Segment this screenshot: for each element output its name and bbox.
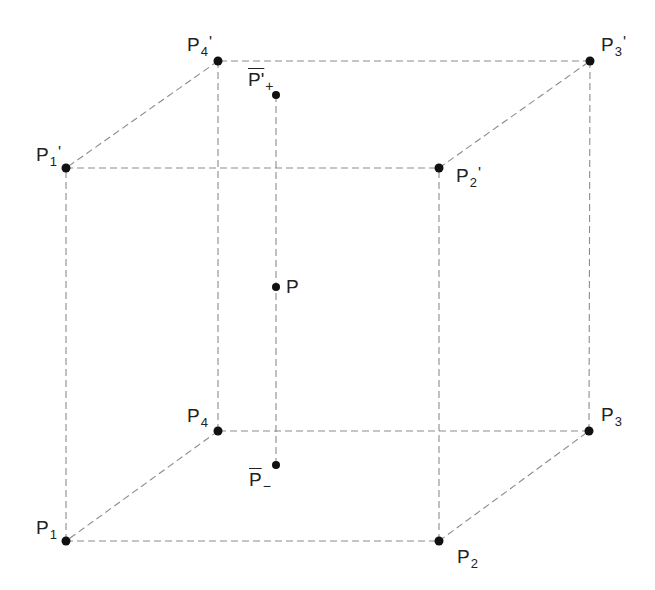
label-p-plus-sub: + <box>265 78 273 94</box>
label-p1: P1 <box>36 518 57 537</box>
label-p3: P3 <box>601 405 622 424</box>
label-p2-prime: P2' <box>456 166 481 185</box>
label-p2-base: P <box>457 546 470 567</box>
vertex-p2-prime <box>435 164 444 173</box>
label-p4-prime: P4' <box>187 35 212 54</box>
label-p1-sub: 1 <box>50 527 57 542</box>
vertex-p3-prime <box>586 57 595 66</box>
label-p2-prime-mark: ' <box>478 165 481 182</box>
label-p: P <box>286 277 299 296</box>
vertex-p1 <box>62 537 71 546</box>
label-p2-prime-base: P <box>456 165 469 186</box>
label-p1-prime-mark: ' <box>58 144 61 161</box>
label-p3-prime-sub: 3 <box>615 44 622 59</box>
label-p3-prime: P3' <box>601 35 626 54</box>
vertex-p2 <box>435 537 444 546</box>
label-p1-base: P <box>36 517 49 538</box>
vertex-p1-prime <box>62 164 71 173</box>
label-p4-sub: 4 <box>201 415 208 430</box>
label-p4-prime-sub: 4 <box>201 44 208 59</box>
label-p-minus-sub: − <box>263 478 271 494</box>
label-p-plus: P'+ <box>248 70 274 89</box>
label-p2: P2 <box>457 547 478 566</box>
label-p3-sub: 3 <box>615 414 622 429</box>
diagram-canvas <box>0 0 655 590</box>
edge-p4-p1 <box>66 431 218 541</box>
edge-p2p-p3p <box>439 61 590 168</box>
label-p3-base: P <box>601 404 614 425</box>
vertex-p-minus <box>272 461 280 469</box>
label-p3-prime-base: P <box>601 34 614 55</box>
vertex-p <box>272 283 280 291</box>
label-p4: P4 <box>187 406 208 425</box>
vertex-p3 <box>585 427 594 436</box>
label-p2-prime-sub: 2 <box>470 175 477 190</box>
vertex-p4 <box>214 427 223 436</box>
label-p1-prime-base: P <box>36 144 49 165</box>
label-p2-sub: 2 <box>471 556 478 571</box>
label-p4-prime-mark: ' <box>209 34 212 51</box>
edge-p2-p3 <box>439 431 589 541</box>
label-p4-prime-base: P <box>187 34 200 55</box>
label-p4-base: P <box>187 405 200 426</box>
label-p-minus-base: P <box>249 469 262 490</box>
label-p1-prime: P1' <box>36 145 61 164</box>
label-p-minus: P− <box>249 470 271 489</box>
label-p-plus-base: P' <box>248 69 264 90</box>
cube-diagram: P1 P2 P3 P4 P1' P2' P3' P4' P P'+ P− <box>0 0 655 590</box>
edge-p3-p3p <box>589 61 590 431</box>
label-p-base: P <box>286 276 299 297</box>
label-p3-prime-mark: ' <box>623 34 626 51</box>
vertex-p4-prime <box>214 57 223 66</box>
label-p1-prime-sub: 1 <box>50 154 57 169</box>
edge-p4p-p1p <box>66 61 218 168</box>
